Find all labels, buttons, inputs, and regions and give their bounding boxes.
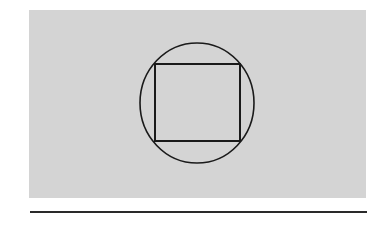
diagram-canvas — [0, 0, 390, 232]
gray-panel — [29, 10, 366, 198]
